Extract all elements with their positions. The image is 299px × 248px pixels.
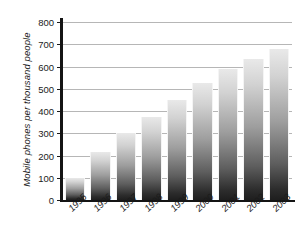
y-tick-label: 600: [24, 61, 54, 72]
y-tick-label: 200: [24, 150, 54, 161]
y-tick-label: 300: [24, 128, 54, 139]
bar-2001: [218, 69, 238, 200]
y-tick-label: 400: [24, 106, 54, 117]
bar-chart: Mobile phones per thousand people 010020…: [0, 0, 299, 248]
y-tick-label: 700: [24, 39, 54, 50]
y-tick-label: 500: [24, 83, 54, 94]
bar-2000: [192, 83, 212, 200]
x-axis-tick-labels: 199519961997199819992000200120022003: [62, 200, 292, 248]
bars-layer: [62, 22, 292, 200]
bar-1998: [141, 117, 161, 200]
y-tick-label: 0: [24, 195, 54, 206]
y-tick-label: 100: [24, 172, 54, 183]
bar-2003: [269, 49, 289, 200]
bar-1997: [116, 133, 136, 200]
y-axis-tick-labels: 0100200300400500600700800: [22, 22, 54, 200]
bar-1999: [167, 100, 187, 200]
bar-2002: [243, 59, 263, 200]
y-tick-label: 800: [24, 17, 54, 28]
